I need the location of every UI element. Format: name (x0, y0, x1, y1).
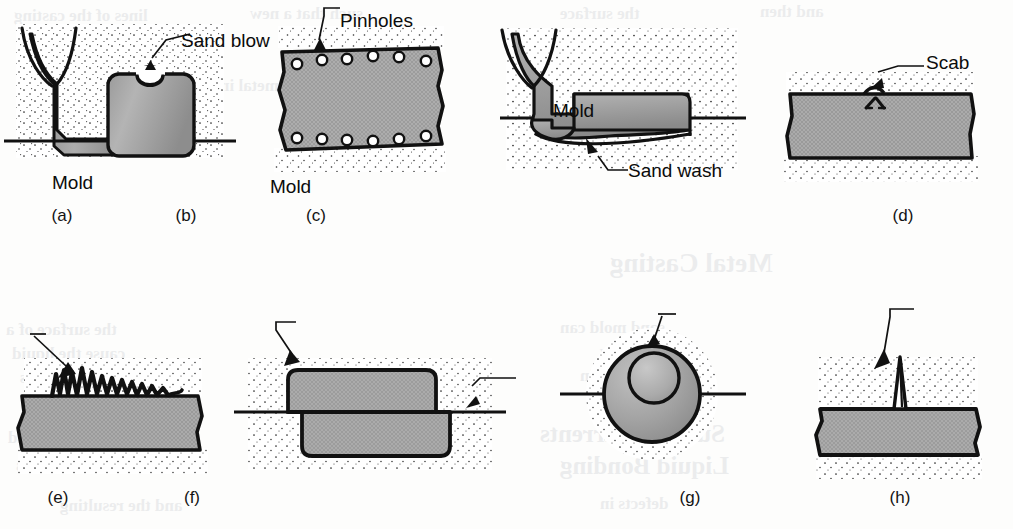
panel-d-drawing (766, 10, 1013, 195)
void-arc-a (137, 75, 163, 85)
casting-body-e (18, 396, 202, 450)
casting-cope-half (288, 370, 436, 412)
label-pinholes: Pinholes (340, 10, 413, 31)
panel-f-mold-shift: Cope has shifted relative to drag Cope D… (230, 300, 530, 485)
casting-body-b (279, 48, 443, 150)
label-mold-a: Mold (52, 172, 93, 193)
core-circle-shifted (629, 353, 679, 403)
panel-f-drawing (230, 300, 530, 485)
label-mold-b: Mold (270, 176, 311, 197)
panel-a-sand-blow: Sand blow Mold (0, 10, 260, 195)
panel-b-pinholes: Pinholes Mold (252, 10, 492, 195)
figure-casting-defects: lines of the castingsuch that a newthe s… (0, 0, 1013, 529)
label-scab: Scab (926, 52, 969, 73)
caption-d: (d) (873, 206, 933, 226)
panel-d-scab: Scab (766, 10, 1013, 195)
caption-h: (h) (870, 488, 930, 508)
sand-below-e (18, 448, 208, 474)
caption-a: (a) (32, 206, 92, 226)
bleedthrough-text: Metal Casting (610, 248, 773, 279)
caption-c: (c) (286, 206, 346, 226)
bleedthrough-text: defects in (600, 494, 668, 514)
panel-e-drawing (0, 300, 250, 485)
panel-h-mold-crack: Mold crack (790, 295, 1013, 485)
label-mold-c: Mold (553, 100, 594, 121)
caption-e: (e) (28, 488, 88, 508)
panel-e-penetration: Penetration (0, 300, 250, 485)
sand-below-b (274, 148, 446, 172)
panel-b-drawing (252, 10, 492, 195)
panel-h-drawing (790, 295, 1013, 485)
label-sand-wash: Sand wash (628, 160, 722, 181)
casting-drag-half (302, 412, 450, 456)
caption-f: (f) (162, 488, 222, 508)
panel-c-sand-wash: Mold Sand wash (500, 10, 770, 195)
caption-b: (b) (156, 206, 216, 226)
panel-g-core-shift: Core has shifted upward (530, 290, 780, 485)
casting-body-h (816, 409, 980, 455)
caption-g: (g) (660, 488, 720, 508)
sand-below-d (784, 156, 978, 182)
panel-g-drawing (530, 290, 780, 485)
